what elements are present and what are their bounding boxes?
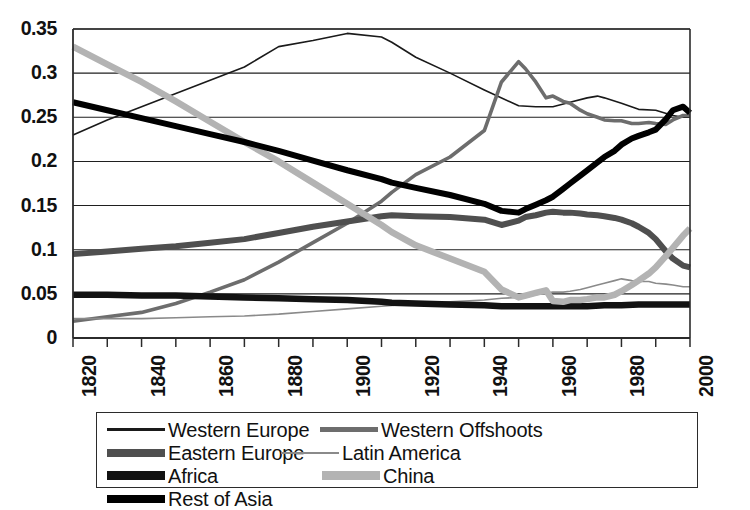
x-axis-tick-labels: 1820184018601880190019201940196019802000 [0,341,750,401]
y-tick-label: 0.35 [21,19,57,39]
legend-item[interactable]: Africa [107,464,322,487]
x-tick-label: 1880 [286,355,306,397]
x-tick-label: 1820 [80,355,100,397]
legend-item[interactable]: Western Europe [107,418,320,441]
legend-item-label: China [383,466,434,486]
legend: Western EuropeWestern OffshootsEastern E… [96,412,698,488]
legend-swatch-icon [320,427,378,432]
line-chart-canvas [0,0,750,400]
legend-item-label: Western Europe [168,420,309,440]
legend-item-label: Western Offshoots [381,420,543,440]
y-tick-label: 0.1 [31,240,57,260]
legend-item[interactable]: Latin America [281,441,494,464]
x-tick-label: 1860 [217,355,237,397]
x-tick-label: 1920 [423,355,443,397]
x-tick-label: 2000 [697,355,717,397]
legend-swatch-icon [322,471,380,480]
series-lines [73,33,690,321]
x-tick-label: 1960 [560,355,580,397]
legend-item[interactable]: Eastern Europe [107,441,281,464]
gridlines [73,29,690,338]
legend-item-label: Rest of Asia [168,489,272,509]
legend-item[interactable]: Rest of Asia [107,487,320,510]
y-tick-label: 0.25 [21,107,57,127]
legend-swatch-icon [281,452,339,454]
x-tick-label: 1840 [149,355,169,397]
y-axis-tick-labels: 00.050.10.150.20.250.30.35 [0,0,66,400]
axis-lines [73,29,690,338]
legend-item-label: Latin America [342,443,461,463]
x-tick-label: 1900 [354,355,374,397]
legend-swatch-icon [107,428,165,431]
legend-swatch-icon [107,471,165,480]
y-tick-label: 0.2 [31,151,57,171]
x-tick-label: 1980 [628,355,648,397]
chart-figure: 00.050.10.150.20.250.30.35 1820184018601… [0,0,750,510]
legend-item-label: Africa [168,466,218,486]
legend-swatch-icon [107,449,165,457]
plot-area: 00.050.10.150.20.250.30.35 1820184018601… [0,0,750,400]
y-tick-label: 0.3 [31,63,57,83]
legend-item[interactable]: China [322,464,496,487]
x-tick-label: 1940 [491,355,511,397]
y-tick-label: 0.15 [21,196,57,216]
legend-swatch-icon [107,495,165,503]
legend-item[interactable]: Western Offshoots [320,418,535,441]
legend-items: Western EuropeWestern OffshootsEastern E… [107,418,697,510]
y-tick-label: 0.05 [21,284,57,304]
